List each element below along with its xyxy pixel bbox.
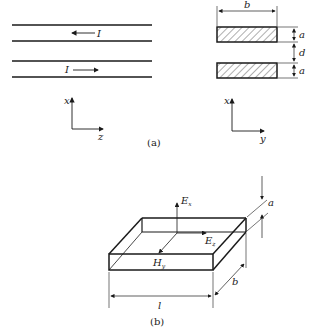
- field-label-hy: Hy: [152, 257, 166, 270]
- dimension-label-a-b: a: [268, 197, 274, 208]
- dimension-b-diagonal: [215, 264, 244, 295]
- axis-label-x-left: x: [64, 95, 70, 106]
- caption-b: (b): [150, 316, 164, 327]
- caption-a: (a): [147, 137, 161, 148]
- dimension-label-a-top: a: [299, 29, 305, 40]
- current-label-bottom: I: [64, 64, 70, 75]
- dimension-label-l: l: [158, 300, 161, 311]
- dimension-label-b-top: b: [244, 0, 250, 10]
- dimension-label-a-bottom: a: [299, 65, 305, 76]
- figure-a-side-view: I I x z: [12, 25, 152, 142]
- field-arrow-hy: [159, 233, 177, 253]
- parallel-plate-diagram: I I x z b a d a x y (a): [0, 0, 310, 334]
- field-label-ex: Ex: [180, 195, 192, 207]
- field-label-ez: Ez: [204, 235, 216, 247]
- axis-label-y-right: y: [259, 133, 266, 144]
- figure-a-cross-section: b a d a x y: [217, 0, 305, 144]
- axis-label-x-right: x: [224, 95, 230, 106]
- conductor-cross-section-bottom: [217, 63, 277, 78]
- dimension-label-b-diagonal: b: [232, 276, 238, 287]
- conductor-cross-section-top: [217, 27, 277, 42]
- current-label-top: I: [96, 28, 102, 39]
- figure-b-slab: Ex Ez Hy l b a: [109, 176, 274, 311]
- dimension-label-d: d: [299, 47, 305, 58]
- axis-label-z-left: z: [97, 131, 104, 142]
